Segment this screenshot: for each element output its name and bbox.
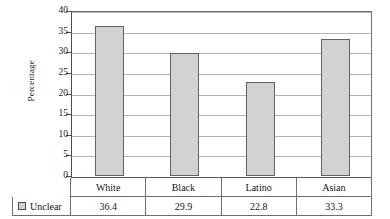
- legend-label: Unclear: [30, 201, 62, 212]
- tick-label-30: 30: [28, 47, 68, 57]
- bar-asian: [321, 39, 350, 176]
- unclear-swatch-icon: [18, 202, 26, 210]
- category-cell-latino: Latino: [222, 178, 297, 197]
- value-cell-latino: 22.8: [222, 197, 297, 216]
- tick-label-10: 10: [28, 130, 68, 140]
- value-cell-black: 29.9: [146, 197, 221, 216]
- tick-label-25: 25: [28, 68, 68, 78]
- table-row-categories: WhiteBlackLatinoAsian: [12, 178, 372, 197]
- data-table: WhiteBlackLatinoAsian Unclear 36.429.922…: [12, 178, 372, 216]
- category-cell-white: White: [71, 178, 146, 197]
- plot-inner: [72, 12, 371, 177]
- tick-label-35: 35: [28, 27, 68, 37]
- legend-entry-unclear[interactable]: Unclear: [12, 197, 71, 216]
- table-row-values: Unclear 36.429.922.833.3: [12, 197, 372, 216]
- bar-chart-figure: Percentage 4035302520151050 WhiteBlackLa…: [0, 0, 390, 219]
- gridline-40: [72, 12, 371, 13]
- tick-label-40: 40: [28, 6, 68, 16]
- category-cell-black: Black: [146, 178, 221, 197]
- bar-latino: [246, 82, 275, 176]
- value-cell-white: 36.4: [71, 197, 146, 216]
- tick-label-20: 20: [28, 89, 68, 99]
- tick-label-15: 15: [28, 109, 68, 119]
- tick-label-5: 5: [28, 150, 68, 160]
- legend-blank-cell: [12, 178, 71, 197]
- bar-black: [170, 53, 199, 176]
- plot-area: [71, 11, 372, 178]
- value-cell-asian: 33.3: [297, 197, 372, 216]
- bar-white: [95, 26, 124, 176]
- category-cell-asian: Asian: [297, 178, 372, 197]
